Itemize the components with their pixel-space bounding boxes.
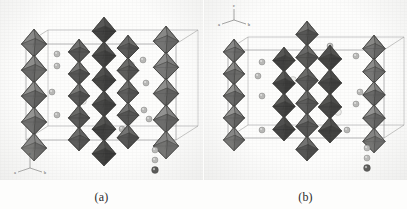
octahedral-column [273, 47, 295, 140]
panel-a-caption: (a) [0, 190, 203, 205]
axis-label-a: a [14, 170, 16, 175]
axis-label-c: c [233, 3, 235, 8]
atom-sphere-9 [357, 89, 363, 95]
axis-label-a: a [218, 22, 220, 27]
legend-sphere-1 [364, 145, 370, 151]
axis-label-b: b [248, 22, 251, 27]
atom-sphere-8 [353, 53, 359, 59]
axis-indicator: cab [218, 3, 251, 27]
panel-b-stage: cab [204, 0, 407, 180]
legend-sphere-3 [152, 167, 159, 174]
atom-sphere-10 [141, 107, 147, 113]
atom-sphere-8 [140, 57, 146, 63]
atom-sphere-2 [54, 63, 60, 69]
octahedral-column [296, 21, 318, 160]
crystal-structure-figure: cab (a) cab (b) [0, 0, 407, 209]
atom-sphere-3 [49, 89, 55, 95]
legend-spheres [364, 145, 371, 171]
panel-b-caption: (b) [204, 190, 407, 205]
octahedral-column [318, 45, 341, 142]
legend-sphere-2 [364, 155, 370, 161]
octahedral-column [68, 39, 89, 150]
panel-a-structure-svg: cab [0, 0, 203, 180]
atom-sphere-11 [344, 127, 350, 133]
atom-sphere-4 [259, 127, 265, 133]
octahedral-columns [22, 17, 179, 165]
legend-sphere-2 [152, 157, 158, 163]
octahedral-column [92, 17, 116, 165]
axis-label-c: c [29, 151, 31, 156]
atom-sphere-3 [259, 93, 265, 99]
octahedral-column [22, 29, 47, 161]
panel-b-structure-svg: cab [204, 0, 407, 180]
legend-spheres [152, 147, 159, 173]
axis-indicator: cab [14, 151, 47, 175]
axis-label-b: b [44, 170, 47, 175]
atom-sphere-2 [255, 73, 261, 79]
panel-b: cab (b) [204, 0, 407, 209]
atom-sphere-4 [54, 112, 60, 118]
legend-sphere-3 [364, 165, 371, 172]
legend-sphere-1 [152, 147, 158, 153]
atom-sphere-1 [54, 51, 60, 57]
panel-a: cab (a) [0, 0, 203, 209]
octahedral-column [363, 35, 385, 152]
panel-a-stage: cab [0, 0, 203, 180]
atom-sphere-9 [143, 80, 149, 86]
atom-sphere-1 [259, 59, 265, 65]
octahedral-column [223, 39, 244, 150]
octahedral-column [153, 26, 178, 159]
atom-sphere-10 [353, 101, 359, 107]
atom-sphere-11 [146, 116, 152, 122]
